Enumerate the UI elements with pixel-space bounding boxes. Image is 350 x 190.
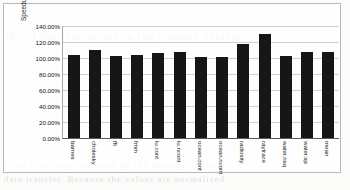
y-axis-tick-label: 20.00% [28, 119, 60, 126]
bar-chart: Speedup norm. to software implementation… [3, 3, 341, 173]
x-axis-tick-slot: fmm [130, 140, 142, 190]
x-axis-tick-slot: mean [321, 140, 333, 190]
y-axis-tick-label: 40.00% [28, 103, 60, 110]
x-axis-tick-label: barnes [69, 141, 76, 160]
x-axis-tick-slot: barnes [67, 140, 79, 190]
y-axis-tick-label: 100.00% [28, 55, 60, 62]
x-axis-tick-label: water.nsq [281, 141, 288, 167]
x-axis-tick-label: raytrace [260, 141, 267, 163]
y-axis-tick-label: 60.00% [28, 87, 60, 94]
x-axis-tick-label: lu.cont [154, 141, 161, 159]
x-axis-tick-slot: water.sp [300, 140, 312, 190]
bar [301, 52, 313, 138]
bar [216, 57, 228, 138]
y-axis-tick-label: 0.00% [28, 135, 60, 142]
bar [195, 57, 207, 138]
x-axis-tick-label: fft [112, 141, 119, 146]
x-axis-tick-label: radiosity [239, 141, 246, 164]
bar [131, 55, 143, 138]
x-axis-tick-label: ocean.cont [196, 141, 203, 171]
x-axis-tick-slot: raytrace [258, 140, 270, 190]
bar [322, 52, 334, 138]
x-axis-tick-label: ocean.ncont [218, 141, 225, 174]
y-axis-tick-label: 80.00% [28, 71, 60, 78]
bar [259, 34, 271, 138]
bar-series [63, 26, 339, 138]
x-axis-tick-label: cholesky [90, 141, 97, 165]
y-axis-tick-label: 120.00% [28, 39, 60, 46]
x-axis-tick-slot: ocean.cont [194, 140, 206, 190]
y-axis-tick-labels: 140.00%120.00%100.00%80.00%60.00%40.00%2… [28, 26, 60, 138]
bar [89, 50, 101, 138]
x-axis-tick-labels: barnescholeskyfftfmmlu.contlu.ncontocean… [62, 140, 338, 190]
x-axis-tick-slot: radiosity [236, 140, 248, 190]
bar [280, 56, 292, 138]
x-axis-tick-label: mean [324, 141, 331, 156]
y-axis-tick-label: 140.00% [28, 23, 60, 30]
bar [110, 56, 122, 138]
bar [174, 52, 186, 138]
x-axis-tick-slot: ocean.ncont [215, 140, 227, 190]
x-axis-tick-slot: lu.cont [151, 140, 163, 190]
bar [152, 53, 164, 138]
bar [237, 44, 249, 138]
x-axis-tick-slot: fft [109, 140, 121, 190]
x-axis-tick-label: water.sp [303, 141, 310, 164]
plot-area [62, 26, 339, 139]
bar [68, 55, 80, 138]
x-axis-tick-slot: lu.ncont [173, 140, 185, 190]
x-axis-tick-slot: water.nsq [279, 140, 291, 190]
x-axis-tick-label: fmm [133, 141, 140, 153]
y-axis-title: Speedup norm. to software implementation [18, 0, 30, 24]
x-axis-tick-label: lu.ncont [175, 141, 182, 162]
x-axis-tick-slot: cholesky [88, 140, 100, 190]
